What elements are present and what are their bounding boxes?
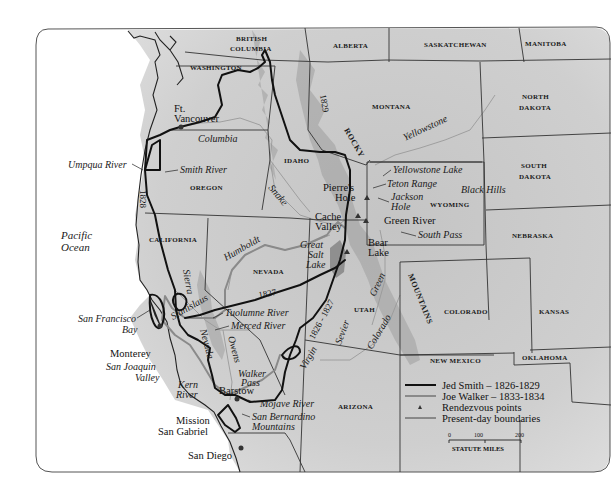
label-north-dakota-1: NORTH <box>522 93 549 101</box>
label-saskatchewan: SASKATCHEWAN <box>424 41 487 49</box>
label-lake-gsl: Lake <box>305 259 326 270</box>
legend-label-rendezvous: Rendezvous points <box>442 402 522 413</box>
label-arizona: ARIZONA <box>338 403 373 411</box>
label-nevada: NEVADA <box>253 268 284 276</box>
label-mission: Mission <box>176 415 211 426</box>
label-new-mexico: NEW MEXICO <box>430 357 481 365</box>
scale-label: STATUTE MILES <box>452 445 504 452</box>
label-british-columbia-2: COLUMBIA <box>230 45 272 53</box>
label-teton-range: Teton Range <box>387 178 437 189</box>
label-valley-sj: Valley <box>135 372 160 383</box>
label-pass: Pass <box>240 377 260 388</box>
label-bay: Bay <box>122 324 138 335</box>
label-hole: Hole <box>335 192 356 203</box>
label-oregon: OREGON <box>190 184 223 192</box>
label-montana: MONTANA <box>372 103 411 111</box>
barstow-dot <box>235 397 240 402</box>
scale-tick-100: 100 <box>474 432 483 438</box>
label-mojave-river: Mojave River <box>259 398 314 409</box>
label-alberta: ALBERTA <box>333 42 368 50</box>
monterey-dot <box>158 324 163 329</box>
label-black-hills: Black Hills <box>461 184 506 195</box>
label-idaho: IDAHO <box>284 157 309 165</box>
label-wyoming: WYOMING <box>430 201 470 209</box>
label-utah: UTAH <box>354 306 375 314</box>
label-manitoba: MANITOBA <box>525 40 567 48</box>
label-san-gabriel: San Gabriel <box>158 426 208 437</box>
map: BRITISH COLUMBIA ALBERTA SASKATCHEWAN MA… <box>0 0 611 498</box>
label-yellowstone-lake: Yellowstone Lake <box>393 164 463 175</box>
legend-label-joe-walker: Joe Walker – 1833-1834 <box>442 391 545 402</box>
label-nebraska: NEBRASKA <box>512 232 553 240</box>
scale-tick-200: 200 <box>515 432 524 438</box>
label-california: CALIFORNIA <box>149 236 197 244</box>
label-kern-river: River <box>175 389 198 400</box>
label-monterey: Monterey <box>110 348 152 359</box>
label-south-dakota-2: DAKOTA <box>519 173 551 181</box>
label-pacific: Pacific <box>60 229 92 241</box>
label-smith-river: Smith River <box>180 164 227 175</box>
label-jackson-hole: Hole <box>390 201 411 212</box>
label-columbia: Columbia <box>198 133 237 144</box>
label-south-pass: South Pass <box>418 229 462 240</box>
label-mountains-sb: Mountains <box>251 421 295 432</box>
label-umpqua-river: Umpqua River <box>68 159 127 170</box>
year-1828: 1828 <box>138 190 148 209</box>
label-ocean: Ocean <box>61 241 90 253</box>
legend-label-jed-smith: Jed Smith – 1826-1829 <box>442 380 540 391</box>
label-san-diego: San Diego <box>188 450 232 461</box>
scale-tick-0: 0 <box>448 432 451 438</box>
san-diego-dot <box>239 446 244 451</box>
label-san-joaquin: San Joaquin <box>106 361 156 372</box>
legend-label-boundaries: Present-day boundaries <box>442 413 540 424</box>
label-oklahoma: OKLAHOMA <box>522 354 568 362</box>
label-kansas: KANSAS <box>539 308 569 316</box>
ft-vancouver-dot <box>179 125 184 130</box>
label-colorado: COLORADO <box>444 308 488 316</box>
label-lake: Lake <box>368 247 389 258</box>
label-san-francisco: San Francisco <box>78 313 136 324</box>
label-vancouver: Vancouver <box>174 113 219 124</box>
label-tuolumne-river: Tuolumne River <box>225 307 289 318</box>
label-green-river: Green River <box>384 215 436 226</box>
label-north-dakota-2: DAKOTA <box>519 104 551 112</box>
label-washington: WASHINGTON <box>190 64 242 72</box>
label-british-columbia-1: BRITISH <box>236 35 268 43</box>
label-merced-river: Merced River <box>230 320 285 331</box>
label-south-dakota-1: SOUTH <box>521 162 547 170</box>
label-valley: Valley <box>315 221 343 232</box>
